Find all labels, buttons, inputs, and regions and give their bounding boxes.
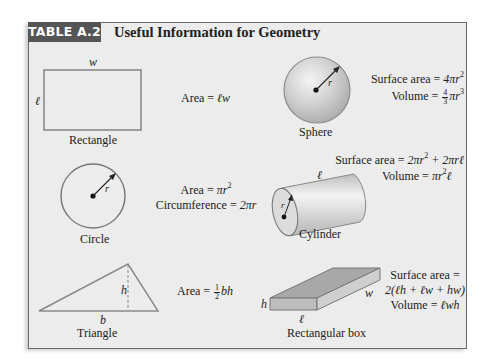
box-volume-formula: Volume = ℓwh xyxy=(384,298,466,313)
box-vol-rhs: ℓwh xyxy=(440,298,459,312)
volume-prefix: Volume = xyxy=(391,298,441,312)
box-surface-area-line2: 2(ℓh + ℓw + hw) xyxy=(384,283,466,298)
box-width-label: w xyxy=(365,286,373,301)
box-sa-line2: 2(ℓh + ℓw + hw) xyxy=(385,283,465,297)
box-surface-area-line1: Surface area = xyxy=(384,268,466,283)
box-height-label: h xyxy=(261,297,267,312)
box-name: Rectangular box xyxy=(287,326,366,341)
box-sa-line1: Surface area = xyxy=(390,268,459,282)
box-length-label: ℓ xyxy=(299,312,304,327)
